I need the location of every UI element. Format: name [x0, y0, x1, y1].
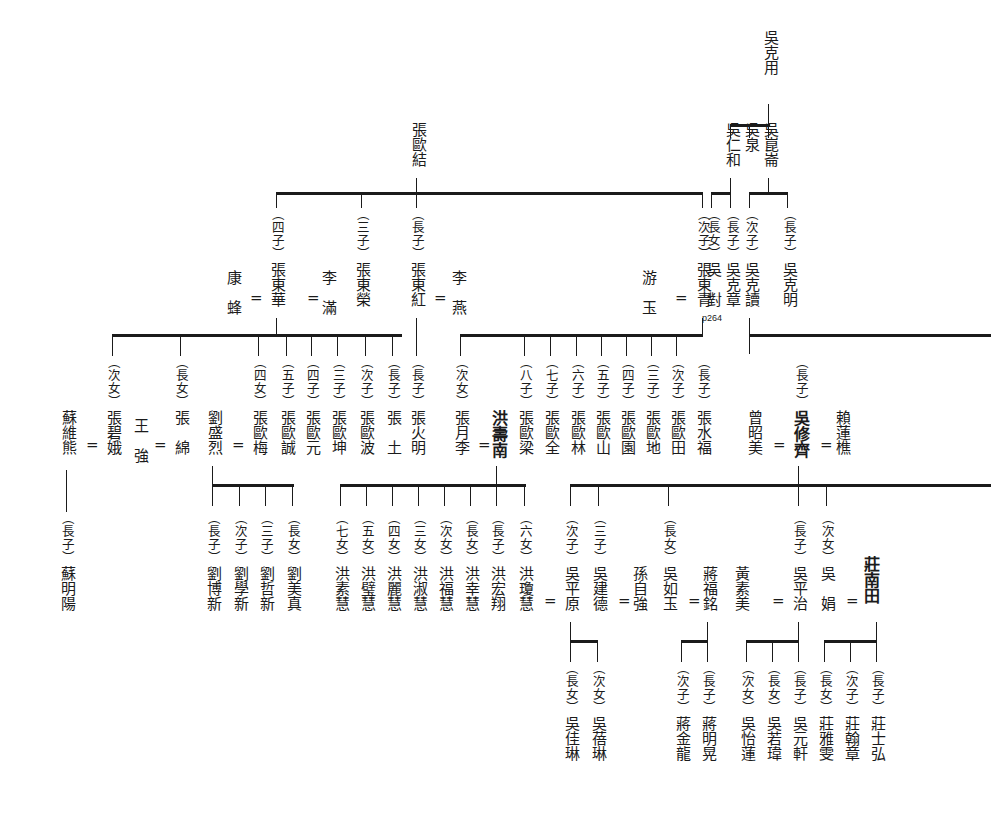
person-zhang-oukun: 張歐坤 [330, 410, 345, 455]
rank-eighth-son: （八子） [518, 356, 531, 408]
union-mark: = [846, 594, 859, 609]
connector-vertical [798, 466, 799, 486]
connector-vertical [798, 622, 799, 642]
person-hong-lihui: 洪麗慧 [385, 566, 400, 611]
rank-third-daughter: （三女） [412, 512, 425, 564]
rank-eldest-son: （長子） [701, 662, 714, 714]
connector-vertical [239, 484, 240, 506]
person-zhang-oumei: 張歐梅 [251, 410, 266, 455]
connector-vertical [570, 640, 571, 662]
connector-vertical [824, 640, 825, 662]
connector-horizontal [340, 484, 526, 487]
person-huang-sumei: 黃素美 [733, 566, 748, 611]
person-wu-yuanxuan: 吳元軒 [791, 716, 806, 761]
rank-fourth-daughter: （四女） [252, 356, 265, 408]
connector-vertical [444, 484, 445, 506]
connector-vertical [366, 484, 367, 506]
connector-vertical [112, 334, 113, 356]
rank-eldest-son: （長子） [386, 356, 399, 408]
rank-second-daughter: （次女） [454, 356, 467, 408]
person-li-yan: 李 燕 [450, 270, 465, 315]
person-su-mingyang: 蘇明陽 [59, 566, 74, 611]
rank-eldest-daughter: （長女） [286, 512, 299, 564]
connector-vertical [416, 318, 417, 356]
person-wu-kunlun: 吳崑崙 [762, 122, 777, 167]
person-wu-kezhang: 吳克章 [724, 262, 739, 307]
person-zhuang-yawen: 莊雅雯 [817, 716, 832, 761]
rank-eldest-son: （長子） [410, 208, 423, 260]
rank-second-daughter: （次女） [591, 662, 604, 714]
rank-second-son: （次子） [675, 662, 688, 714]
connector-vertical [676, 334, 677, 356]
person-zhang-mian: 張 綿 [173, 410, 188, 455]
rank-fourth-son: （四子） [305, 356, 318, 408]
rank-third-son: （三子） [259, 512, 272, 564]
connector-vertical [416, 192, 417, 208]
person-wu-ruyu: 吳如玉 [661, 566, 676, 611]
connector-vertical [524, 484, 525, 506]
union-mark: = [232, 438, 245, 453]
connector-vertical [361, 192, 362, 208]
connector-vertical [180, 334, 181, 356]
person-jiang-jinlong: 蔣金龍 [674, 716, 689, 761]
person-zhang-ouquan: 張歐全 [543, 410, 558, 455]
person-liu-zhexin: 劉哲新 [258, 566, 273, 611]
rank-second-daughter: （次女） [106, 356, 119, 408]
connector-vertical [749, 192, 750, 208]
connector-vertical [668, 484, 669, 506]
person-hong-suhui: 洪素慧 [333, 566, 348, 611]
connector-vertical [292, 484, 293, 506]
person-hong-bihui: 洪璧慧 [359, 566, 374, 611]
connector-vertical [460, 334, 461, 356]
connector-vertical [337, 334, 338, 356]
person-wu-juan: 吳 娟 [819, 566, 834, 611]
person-zhang-bie: 張碧娥 [105, 410, 120, 455]
connector-vertical [730, 192, 731, 208]
rank-third-son: （三子） [331, 356, 344, 408]
union-mark: = [820, 438, 833, 453]
connector-horizontal [276, 192, 703, 195]
connector-vertical [212, 484, 213, 506]
connector-horizontal [749, 192, 788, 195]
rank-eldest-son: （長子） [410, 356, 423, 408]
rank-fourth-son: （四子） [620, 356, 633, 408]
connector-vertical [392, 334, 393, 356]
person-hong-xinghui: 洪幸慧 [463, 566, 478, 611]
rank-third-son: （三子） [645, 356, 658, 408]
rank-eldest-son: （長子） [794, 356, 807, 408]
connector-vertical [340, 484, 341, 506]
person-wu-beilin: 吳蓓琳 [590, 716, 605, 761]
rank-fourth-daughter: （四女） [386, 512, 399, 564]
union-mark: = [772, 594, 785, 609]
union-mark: = [434, 291, 447, 306]
connector-vertical [570, 484, 571, 506]
rank-second-daughter: （次女） [438, 512, 451, 564]
connector-vertical [598, 484, 599, 506]
connector-vertical [651, 334, 652, 356]
person-liu-meizhen: 劉美真 [285, 566, 300, 611]
person-jiang-minghuang: 蔣明晃 [700, 716, 715, 761]
connector-vertical [311, 334, 312, 356]
connector-vertical [212, 466, 213, 486]
rank-eldest-daughter: （長女） [564, 662, 577, 714]
rank-eldest-daughter: （長女） [818, 662, 831, 714]
connector-vertical [702, 192, 703, 208]
person-zhang-yueli: 張月李 [453, 410, 468, 455]
connector-vertical [286, 334, 287, 356]
person-zeng-zhaomei: 曾昭美 [746, 410, 761, 455]
person-wu-pingyuan: 吳平原 [563, 566, 578, 611]
person-jiang-fuming: 蔣福銘 [701, 566, 716, 611]
rank-second-son: （次子） [844, 662, 857, 714]
connector-vertical [265, 484, 266, 506]
rank-sixth-son: （六子） [570, 356, 583, 408]
rank-fourth-son: （四子） [270, 208, 283, 260]
genealogy-chart: 吳克用 吳崑崙 吳泉 吳仁和 （長子） 吳克明 （次子） 吳克讀 （長子） 吳克… [0, 0, 991, 813]
rank-fifth-son: （五子） [595, 356, 608, 408]
rank-eldest-daughter: （長女） [464, 512, 477, 564]
person-wu-pingzhi: 吳平治 [791, 566, 806, 611]
connector-horizontal [711, 192, 731, 195]
connector-vertical [749, 334, 750, 354]
rank-eldest-daughter: （長女） [174, 356, 187, 408]
connector-horizontal [681, 640, 708, 643]
union-mark: = [86, 438, 99, 453]
